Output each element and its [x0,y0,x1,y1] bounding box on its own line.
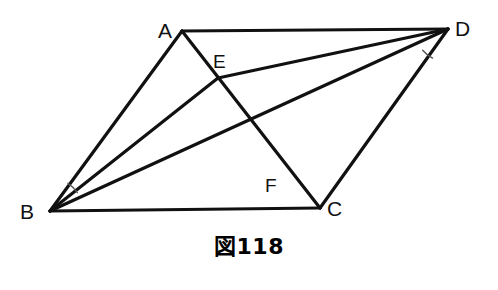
vertex-label-a: A [158,20,172,41]
point-label-f: F [265,176,277,195]
segments-group [50,29,448,211]
segment-DE [218,29,448,78]
segment-BD-through-F [50,29,448,211]
figure-container: A B C D E F 図118 [0,0,498,290]
segment-AD [182,29,448,31]
segment-BC [50,208,320,211]
vertex-label-d: D [455,18,470,39]
point-label-e: E [213,52,226,71]
figure-caption: 図118 [0,236,498,258]
vertex-label-b: B [20,201,34,222]
vertex-label-c: C [327,198,342,219]
